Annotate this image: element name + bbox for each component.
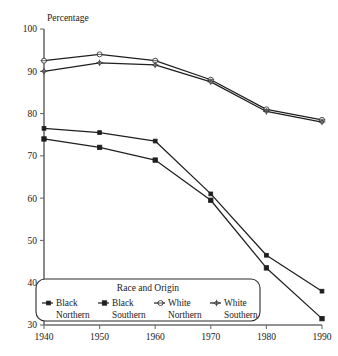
x-axis-ticks: 194019501960197019801990 (35, 325, 332, 342)
data-point-marker (320, 289, 324, 293)
data-point-marker (102, 301, 106, 305)
x-tick-label: 1940 (35, 332, 54, 342)
y-tick-label: 90 (28, 67, 38, 77)
x-tick-label: 1970 (201, 332, 220, 342)
y-tick-label: 30 (28, 320, 38, 330)
legend-label-line2: Southern (112, 310, 146, 320)
legend-label-line1: White (224, 298, 247, 308)
x-tick-label: 1990 (313, 332, 332, 342)
y-tick-label: 60 (28, 194, 38, 204)
legend-label-line1: Black (56, 298, 78, 308)
chart-canvas: 30405060708090100 1940195019601970198019… (0, 0, 338, 356)
y-tick-label: 70 (28, 151, 38, 161)
data-point-marker (265, 253, 269, 257)
data-point-marker (153, 158, 157, 162)
legend-label-line1: Black (112, 298, 134, 308)
y-tick-label: 100 (23, 24, 38, 34)
data-point-marker (264, 266, 268, 270)
x-tick-label: 1960 (146, 332, 165, 342)
series-black-northern (42, 126, 324, 293)
data-point-marker (42, 137, 46, 141)
legend-title: Race and Origin (117, 283, 180, 293)
series-white-northern (41, 52, 326, 123)
data-point-marker (97, 145, 101, 149)
y-tick-label: 50 (28, 236, 38, 246)
legend-label-line2: Northern (168, 310, 202, 320)
y-axis-title: Percentage (47, 13, 89, 23)
data-point-marker (209, 192, 213, 196)
data-point-marker (209, 198, 213, 202)
data-point-marker (98, 131, 102, 135)
series-white-southern (41, 60, 326, 126)
x-tick-label: 1980 (257, 332, 276, 342)
series-line (44, 128, 322, 291)
series-line (44, 54, 322, 120)
data-point-marker (42, 126, 46, 130)
legend-label-line2: Northern (56, 310, 90, 320)
y-tick-label: 80 (28, 109, 38, 119)
series-line (44, 63, 322, 122)
data-point-marker (153, 139, 157, 143)
x-tick-label: 1950 (90, 332, 109, 342)
line-chart: 30405060708090100 1940195019601970198019… (0, 0, 338, 356)
chart-legend: Race and OriginBlackNorthernBlackSouther… (36, 279, 260, 321)
legend-label-line2: Southern (224, 310, 258, 320)
data-point-marker (320, 316, 324, 320)
legend-label-line1: White (168, 298, 191, 308)
data-point-marker (47, 301, 51, 305)
